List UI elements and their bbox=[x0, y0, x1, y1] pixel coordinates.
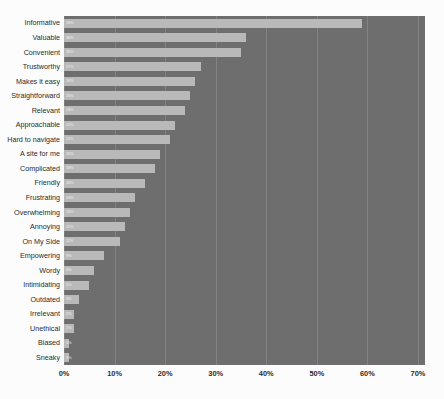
bar[interactable] bbox=[64, 164, 155, 173]
x-tick-label: 50% bbox=[309, 370, 324, 377]
bar-value-label: 13% bbox=[66, 210, 73, 214]
bar-row: 5% bbox=[64, 278, 425, 293]
category-axis-labels: InformativeValuableConvenientTrustworthy… bbox=[0, 16, 60, 365]
x-tick-label: 30% bbox=[208, 370, 223, 377]
bar-row: 27% bbox=[64, 60, 425, 75]
bar-value-label: 3% bbox=[66, 297, 71, 301]
category-label: Unethical bbox=[0, 325, 60, 332]
category-label: A site for me bbox=[0, 150, 60, 157]
bar[interactable] bbox=[64, 106, 185, 115]
bar-value-label: 2% bbox=[66, 326, 71, 330]
bar-row: 59% bbox=[64, 16, 425, 31]
category-label: Intimidating bbox=[0, 281, 60, 288]
bar-row: 19% bbox=[64, 147, 425, 162]
bar-value-label: 59% bbox=[66, 21, 73, 25]
category-label: Sneaky bbox=[0, 354, 60, 361]
bar-row: 11% bbox=[64, 234, 425, 249]
bar-value-label: 22% bbox=[66, 123, 73, 127]
bar-row: 25% bbox=[64, 89, 425, 104]
category-label: Frustrating bbox=[0, 194, 60, 201]
bar-row: 26% bbox=[64, 74, 425, 89]
bar-row: 1% bbox=[64, 336, 425, 351]
bar[interactable] bbox=[64, 208, 130, 217]
bar-row: 18% bbox=[64, 161, 425, 176]
category-label: Irrelevant bbox=[0, 310, 60, 317]
bar-value-label: 21% bbox=[66, 137, 73, 141]
bar-value-label: 14% bbox=[66, 196, 73, 200]
category-label: Annoying bbox=[0, 223, 60, 230]
bar[interactable] bbox=[64, 150, 160, 159]
x-tick-label: 10% bbox=[107, 370, 122, 377]
bar-value-label: 12% bbox=[66, 225, 73, 229]
bar[interactable] bbox=[64, 121, 175, 130]
bar-value-label: 35% bbox=[66, 50, 73, 54]
bar-row: 2% bbox=[64, 321, 425, 336]
category-label: Overwhelming bbox=[0, 209, 60, 216]
bar-row: 35% bbox=[64, 45, 425, 60]
category-label: Makes it easy bbox=[0, 78, 60, 85]
bar-value-label: 26% bbox=[66, 79, 73, 83]
bar-row: 36% bbox=[64, 31, 425, 46]
bar-row: 14% bbox=[64, 191, 425, 206]
category-label: Hard to navigate bbox=[0, 136, 60, 143]
bar-value-label: 25% bbox=[66, 94, 73, 98]
category-label: Convenient bbox=[0, 49, 60, 56]
bar-value-label: 11% bbox=[66, 239, 73, 243]
bar[interactable] bbox=[64, 33, 246, 42]
bar[interactable] bbox=[64, 62, 201, 71]
category-label: Complicated bbox=[0, 165, 60, 172]
bar[interactable] bbox=[64, 91, 190, 100]
x-tick-label: 70% bbox=[411, 370, 426, 377]
x-tick-label: 40% bbox=[259, 370, 274, 377]
bar-row: 12% bbox=[64, 220, 425, 235]
bar-row: 16% bbox=[64, 176, 425, 191]
bar-value-label: 24% bbox=[66, 108, 73, 112]
bar-value-label: 1% bbox=[66, 356, 71, 360]
bar-value-label: 2% bbox=[66, 312, 71, 316]
category-label: On My Side bbox=[0, 238, 60, 245]
bar-chart: InformativeValuableConvenientTrustworthy… bbox=[0, 0, 444, 399]
bar-value-label: 27% bbox=[66, 65, 73, 69]
bar-value-label: 5% bbox=[66, 283, 71, 287]
x-tick-label: 60% bbox=[360, 370, 375, 377]
category-label: Empowering bbox=[0, 252, 60, 259]
category-label: Approachable bbox=[0, 121, 60, 128]
bar-row: 3% bbox=[64, 292, 425, 307]
x-tick-label: 0% bbox=[59, 370, 70, 377]
bar-row: 2% bbox=[64, 307, 425, 322]
bar[interactable] bbox=[64, 77, 195, 86]
category-label: Straightforward bbox=[0, 92, 60, 99]
bar-value-label: 8% bbox=[66, 254, 71, 258]
bar-value-label: 19% bbox=[66, 152, 73, 156]
bar-value-label: 16% bbox=[66, 181, 73, 185]
category-label: Valuable bbox=[0, 34, 60, 41]
bar-row: 21% bbox=[64, 132, 425, 147]
bar-series: 59%36%35%27%26%25%24%22%21%19%18%16%14%1… bbox=[64, 16, 425, 365]
category-label: Outdated bbox=[0, 296, 60, 303]
bar-value-label: 6% bbox=[66, 268, 71, 272]
bar-row: 1% bbox=[64, 350, 425, 365]
category-label: Trustworthy bbox=[0, 63, 60, 70]
bar-row: 24% bbox=[64, 103, 425, 118]
bar-row: 22% bbox=[64, 118, 425, 133]
bar-value-label: 36% bbox=[66, 36, 73, 40]
value-axis-labels: 0%10%20%30%40%50%60%70% bbox=[0, 370, 444, 384]
category-label: Wordy bbox=[0, 267, 60, 274]
bar[interactable] bbox=[64, 135, 170, 144]
bar[interactable] bbox=[64, 193, 135, 202]
bar-value-label: 18% bbox=[66, 166, 73, 170]
category-label: Biased bbox=[0, 339, 60, 346]
x-tick-label: 20% bbox=[158, 370, 173, 377]
bar-row: 6% bbox=[64, 263, 425, 278]
plot-area: 59%36%35%27%26%25%24%22%21%19%18%16%14%1… bbox=[64, 16, 425, 365]
bar-row: 8% bbox=[64, 249, 425, 264]
category-label: Friendly bbox=[0, 179, 60, 186]
category-label: Relevant bbox=[0, 107, 60, 114]
bar-row: 13% bbox=[64, 205, 425, 220]
bar-value-label: 1% bbox=[66, 341, 71, 345]
bar[interactable] bbox=[64, 19, 362, 28]
category-label: Informative bbox=[0, 19, 60, 26]
bar[interactable] bbox=[64, 179, 145, 188]
bar[interactable] bbox=[64, 48, 241, 57]
